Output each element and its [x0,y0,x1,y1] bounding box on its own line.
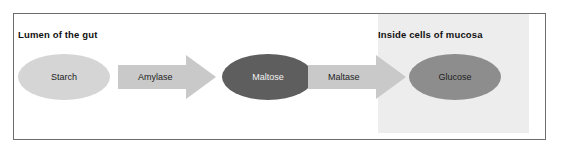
molecule-glucose-label: Glucose [438,72,471,82]
molecule-maltose-label: Maltose [252,72,284,82]
mucosa-compartment-heading: Inside cells of mucosa [378,29,483,40]
enzyme-arrow-maltase: Maltase [308,55,406,99]
enzyme-maltase-label: Maltase [308,72,360,82]
molecule-glucose: Glucose [409,54,501,100]
lumen-compartment-heading: Lumen of the gut [18,29,97,40]
molecule-starch: Starch [18,54,110,100]
molecule-maltose: Maltose [222,54,314,100]
molecule-starch-label: Starch [51,72,77,82]
diagram-screenshot: Lumen of the gut Inside cells of mucosa … [0,0,561,153]
enzyme-arrow-amylase: Amylase [118,55,216,99]
enzyme-amylase-label: Amylase [118,72,173,82]
